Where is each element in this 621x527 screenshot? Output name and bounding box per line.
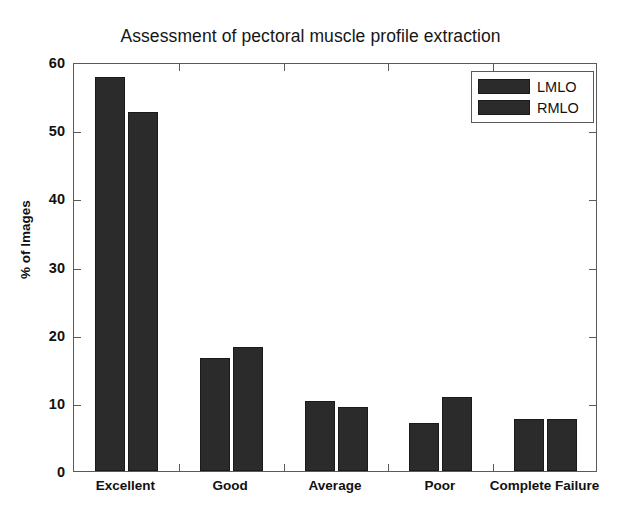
- legend-swatch-lmlo: [478, 79, 530, 94]
- y-tick-label: 30: [21, 260, 65, 276]
- legend-item-lmlo: LMLO: [478, 77, 587, 96]
- bar-rmlo-complete-failure: [547, 419, 577, 471]
- y-tick-label: 10: [21, 396, 65, 412]
- bar-lmlo-excellent: [95, 77, 125, 471]
- legend-swatch-rmlo: [478, 100, 530, 115]
- chart-title: Assessment of pectoral muscle profile ex…: [0, 26, 621, 47]
- x-tick-mark-top: [284, 64, 285, 71]
- bar-rmlo-average: [338, 407, 368, 471]
- y-tick-mark-right: [589, 132, 596, 133]
- y-tick-mark-right: [589, 200, 596, 201]
- y-tick-mark: [74, 337, 81, 338]
- x-tick-mark: [493, 464, 494, 471]
- bar-rmlo-good: [233, 347, 263, 471]
- bar-lmlo-average: [305, 401, 335, 471]
- x-tick-mark: [284, 464, 285, 471]
- y-tick-label: 40: [21, 191, 65, 207]
- y-tick-mark: [74, 405, 81, 406]
- x-tick-label: Complete Failure: [490, 478, 600, 493]
- x-tick-label: Excellent: [96, 478, 155, 493]
- plot-area: LMLO RMLO: [73, 63, 597, 472]
- y-tick-mark-right: [589, 269, 596, 270]
- x-tick-mark-top: [179, 64, 180, 71]
- y-tick-label: 50: [21, 123, 65, 139]
- y-tick-label: 0: [21, 464, 65, 480]
- bar-rmlo-excellent: [128, 112, 158, 471]
- x-tick-label: Good: [213, 478, 248, 493]
- y-tick-mark: [74, 269, 81, 270]
- chart-legend: LMLO RMLO: [471, 71, 594, 123]
- legend-item-rmlo: RMLO: [478, 98, 587, 117]
- x-tick-mark: [179, 464, 180, 471]
- bar-lmlo-poor: [409, 423, 439, 471]
- y-tick-mark: [74, 132, 81, 133]
- chart-figure: Assessment of pectoral muscle profile ex…: [0, 0, 621, 527]
- bar-lmlo-good: [200, 358, 230, 471]
- y-tick-label: 60: [21, 55, 65, 71]
- bar-lmlo-complete-failure: [514, 419, 544, 471]
- y-tick-mark-right: [589, 337, 596, 338]
- x-tick-label: Average: [309, 478, 362, 493]
- x-tick-mark-top: [493, 64, 494, 71]
- bar-rmlo-poor: [442, 397, 472, 471]
- y-tick-mark-right: [589, 405, 596, 406]
- y-tick-label: 20: [21, 328, 65, 344]
- legend-label-lmlo: LMLO: [537, 79, 577, 95]
- x-tick-label: Poor: [424, 478, 455, 493]
- legend-label-rmlo: RMLO: [537, 100, 579, 116]
- x-tick-mark: [388, 464, 389, 471]
- y-tick-mark: [74, 200, 81, 201]
- x-tick-mark-top: [388, 64, 389, 71]
